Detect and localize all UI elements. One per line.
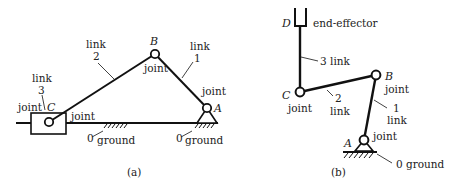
joint-a-icon: [360, 136, 369, 145]
ground-hatch-middle: [104, 124, 127, 128]
label-link1-word: link: [190, 40, 210, 52]
label-joint-c: joint: [286, 102, 313, 114]
label-ground-right-num: 0: [176, 132, 183, 144]
point-b-label: B: [149, 35, 158, 48]
ground-hatch-right: [195, 124, 214, 128]
label-link1-num: 1: [194, 52, 201, 64]
mechanism-diagrams: link 2 B joint link 1 joint A link 3 joi…: [0, 0, 453, 189]
joint-b-icon: [372, 71, 381, 80]
label-ground-left-num: 0: [87, 132, 94, 144]
point-a-label: A: [343, 137, 352, 150]
label-link1-num: 1: [393, 102, 400, 114]
point-a-label: A: [213, 102, 222, 115]
label-ground: 0 ground: [396, 158, 445, 170]
label-joint-slider: joint: [69, 110, 96, 122]
leader-link2: [98, 63, 114, 79]
label-link3-num: 3: [38, 84, 45, 96]
label-link2-num: 2: [93, 50, 100, 62]
leader-link2: [327, 90, 333, 96]
point-b-label: B: [384, 70, 393, 83]
point-c-label: C: [282, 89, 291, 102]
joint-b-icon: [151, 50, 159, 58]
label-link2-word: link: [86, 38, 106, 50]
label-end-effector: end-effector: [313, 17, 379, 29]
label-link2-word: link: [330, 105, 350, 117]
leader-link1: [374, 100, 387, 108]
caption-b: (b): [331, 166, 346, 178]
leader-ground: [377, 154, 392, 163]
joint-c-icon: [296, 88, 305, 97]
label-link1-word: link: [387, 114, 407, 126]
label-joint-b: joint: [383, 83, 410, 95]
label-link3-word: link: [32, 72, 52, 84]
leader-link1: [182, 62, 193, 78]
joint-a-icon: [203, 104, 211, 112]
figure-b-robot-arm: D end-effector 3 link C joint 2 link B j…: [281, 8, 445, 178]
link-2: [300, 75, 376, 92]
label-joint-a: joint: [371, 130, 398, 142]
joint-c-icon: [45, 118, 53, 126]
gripper-icon: [295, 8, 306, 26]
point-d-label: D: [281, 17, 291, 30]
label-joint-b: joint: [142, 62, 169, 74]
label-link3: 3 link: [320, 55, 350, 67]
label-ground-left: ground: [97, 134, 136, 146]
label-ground-right: ground: [185, 134, 224, 146]
point-c-label: C: [47, 101, 56, 114]
label-joint-a: joint: [200, 85, 227, 97]
link-2: [49, 54, 155, 122]
leader-link3: [42, 95, 45, 110]
figure-a-slider-crank: link 2 B joint link 1 joint A link 3 joi…: [16, 35, 227, 178]
ground-hatch: [344, 153, 373, 158]
label-link2-num: 2: [335, 92, 342, 104]
caption-a: (a): [127, 166, 141, 178]
label-joint-c-left: joint: [16, 101, 43, 113]
leader-link3: [301, 57, 318, 61]
